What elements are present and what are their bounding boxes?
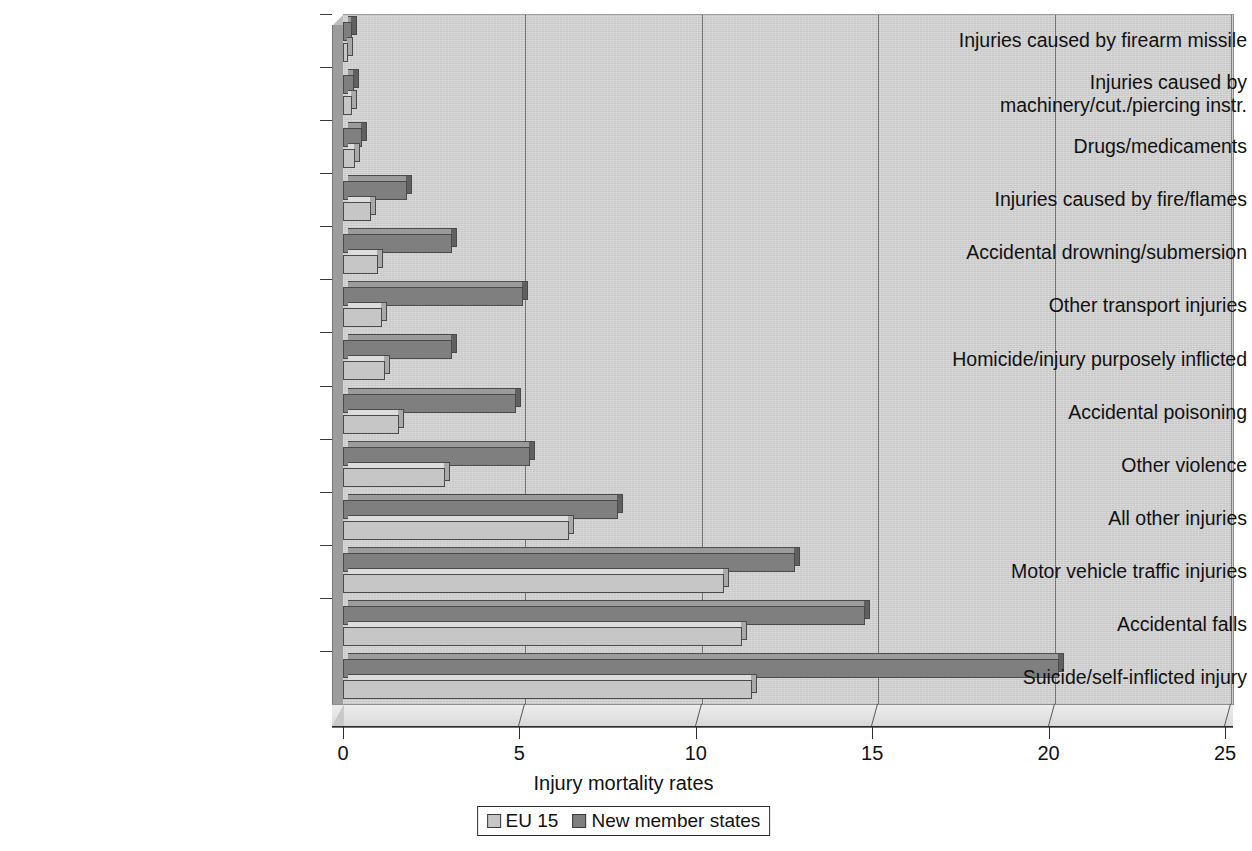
y-axis-tick (320, 120, 332, 121)
bar-front-face (343, 521, 569, 540)
bar-eu15 (343, 255, 378, 274)
y-axis-tick (320, 332, 332, 333)
bar-front-face (343, 468, 445, 487)
y-axis-category-label-line: Accidental drowning/submersion (929, 241, 1247, 264)
y-axis-tick (320, 67, 332, 68)
bar-front-face (343, 574, 724, 593)
y-axis-category-label-line: Drugs/medicaments (929, 135, 1247, 158)
bar-eu15 (343, 627, 742, 646)
bar-eu15 (343, 308, 382, 327)
bar-eu15 (343, 521, 569, 540)
y-axis-tick (320, 386, 332, 387)
y-axis-tick (320, 14, 332, 15)
bar-eu15 (343, 680, 752, 699)
bar-front-face (343, 255, 378, 274)
y-axis-category-label: Motor vehicle traffic injuries (929, 560, 1247, 583)
y-axis-category-label: Injuries caused bymachinery/cut./piercin… (929, 71, 1247, 117)
y-axis-tick (320, 173, 332, 174)
bar-front-face (343, 308, 382, 327)
bar-eu15 (343, 574, 724, 593)
y-axis-category-label-line: machinery/cut./piercing instr. (929, 94, 1247, 117)
bar-eu15 (343, 361, 385, 380)
plot-floor-slab (332, 704, 1233, 728)
y-axis-category-label-line: Accidental poisoning (929, 401, 1247, 424)
y-axis-category-label-line: Accidental falls (929, 613, 1247, 636)
y-axis-category-label: Accidental falls (929, 613, 1247, 636)
y-axis-category-label: Drugs/medicaments (929, 135, 1247, 158)
y-axis-category-label-line: Homicide/injury purposely inflicted (929, 348, 1247, 371)
y-axis-tick (320, 492, 332, 493)
y-axis-category-label-line: Other violence (929, 454, 1247, 477)
x-axis-tick-label: 5 (489, 742, 549, 764)
bar-front-face (343, 680, 752, 699)
x-axis-tick (519, 726, 520, 739)
bar-front-face (343, 43, 348, 62)
bar-front-face (343, 361, 385, 380)
legend-item-eu15: EU 15 (487, 810, 559, 832)
x-axis-tick-label: 15 (842, 742, 902, 764)
bar-front-face (343, 202, 371, 221)
legend-label-eu15: EU 15 (506, 810, 559, 832)
y-axis-category-label: All other injuries (929, 507, 1247, 530)
bar-eu15 (343, 149, 355, 168)
x-axis-tick (343, 726, 344, 739)
bar-front-face (343, 415, 399, 434)
bar-eu15 (343, 415, 399, 434)
gridline (878, 15, 879, 705)
x-axis-tick (1049, 726, 1050, 739)
y-axis-category-label-line: Injuries caused by (929, 71, 1247, 94)
legend-swatch-eu15 (487, 814, 501, 828)
bar-eu15 (343, 96, 352, 115)
y-axis-category-label-line: Other transport injuries (929, 294, 1247, 317)
x-axis-tick-label: 20 (1019, 742, 1079, 764)
y-axis-tick (320, 279, 332, 280)
y-axis-category-label: Homicide/injury purposely inflicted (929, 348, 1247, 371)
y-axis-tick (320, 226, 332, 227)
y-axis-tick (320, 598, 332, 599)
y-axis-tick (320, 651, 332, 652)
y-axis-category-label: Accidental poisoning (929, 401, 1247, 424)
bar-front-face (343, 149, 355, 168)
y-axis-category-label: Suicide/self-inflicted injury (929, 666, 1247, 689)
x-axis-tick-label: 25 (1195, 742, 1252, 764)
legend: EU 15 New member states (477, 806, 771, 836)
y-axis-category-label: Injuries caused by fire/flames (929, 188, 1247, 211)
bar-eu15 (343, 468, 445, 487)
y-axis-category-label: Injuries caused by firearm missile (929, 29, 1247, 52)
bar-front-face (343, 96, 352, 115)
y-axis-tick (320, 439, 332, 440)
x-axis-tick-label: 0 (313, 742, 373, 764)
y-axis-category-label: Other transport injuries (929, 294, 1247, 317)
y-axis-category-label-line: Motor vehicle traffic injuries (929, 560, 1247, 583)
x-axis-tick-label: 10 (666, 742, 726, 764)
bar-front-face (343, 627, 742, 646)
x-axis-tick (872, 726, 873, 739)
x-axis-line (332, 726, 1233, 727)
bar-eu15 (343, 43, 348, 62)
legend-label-new-member-states: New member states (591, 810, 760, 832)
x-axis-title: Injury mortality rates (0, 772, 1247, 795)
y-axis-category-label: Accidental drowning/submersion (929, 241, 1247, 264)
y-axis-category-label-line: Injuries caused by firearm missile (929, 29, 1247, 52)
y-axis-tick (320, 545, 332, 546)
y-axis-category-label-line: Suicide/self-inflicted injury (929, 666, 1247, 689)
y-axis-category-label: Other violence (929, 454, 1247, 477)
y-axis-category-label-line: All other injuries (929, 507, 1247, 530)
legend-swatch-new-member-states (572, 814, 586, 828)
bar-eu15 (343, 202, 371, 221)
y-axis-category-label-line: Injuries caused by fire/flames (929, 188, 1247, 211)
legend-item-new-member-states: New member states (572, 810, 760, 832)
x-axis-tick (1225, 726, 1226, 739)
x-axis-tick (696, 726, 697, 739)
